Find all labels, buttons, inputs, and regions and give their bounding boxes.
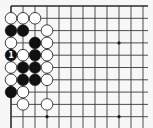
black-stone-icon xyxy=(29,62,41,74)
white-stone-icon xyxy=(41,99,53,111)
black-stone xyxy=(17,74,29,86)
black-stone xyxy=(17,25,29,37)
black-stone: 1 xyxy=(5,49,17,61)
white-stone-icon xyxy=(41,49,53,61)
black-stone xyxy=(29,62,41,74)
move-number-label: 1 xyxy=(8,51,14,60)
black-stone xyxy=(5,86,17,98)
white-stone xyxy=(41,49,53,61)
white-stone-icon xyxy=(17,86,29,98)
white-stone-icon xyxy=(41,25,53,37)
white-stone xyxy=(41,37,53,49)
black-stone-icon xyxy=(5,25,17,37)
stones: 1 xyxy=(5,12,53,110)
white-stone xyxy=(5,74,17,86)
white-stone-icon xyxy=(5,12,17,24)
white-stone xyxy=(17,99,29,111)
white-stone-icon xyxy=(17,99,29,111)
white-stone-icon xyxy=(5,74,17,86)
white-stone xyxy=(17,86,29,98)
white-stone xyxy=(41,99,53,111)
white-stone-icon xyxy=(29,12,41,24)
white-stone-icon xyxy=(17,12,29,24)
white-stone-icon xyxy=(5,62,17,74)
black-stone-icon xyxy=(17,25,29,37)
star-point-icon xyxy=(117,115,120,118)
black-stone xyxy=(29,74,41,86)
star-point-icon xyxy=(117,41,120,44)
black-stone-icon xyxy=(29,74,41,86)
white-stone-icon xyxy=(5,37,17,49)
star-point-icon xyxy=(45,115,48,118)
black-stone xyxy=(29,37,41,49)
white-stone xyxy=(5,12,17,24)
black-stone-icon xyxy=(5,86,17,98)
black-stone-icon xyxy=(29,49,41,61)
black-stone-icon xyxy=(29,37,41,49)
go-board-svg: 1 xyxy=(0,0,153,128)
white-stone xyxy=(29,12,41,24)
white-stone xyxy=(17,12,29,24)
black-stone-icon xyxy=(17,62,29,74)
white-stone-icon xyxy=(41,62,53,74)
white-stone xyxy=(5,37,17,49)
white-stone xyxy=(41,74,53,86)
white-stone xyxy=(41,25,53,37)
black-stone-icon xyxy=(17,74,29,86)
white-stone-icon xyxy=(17,49,29,61)
white-stone-icon xyxy=(41,37,53,49)
black-stone xyxy=(17,62,29,74)
white-stone xyxy=(17,49,29,61)
black-stone xyxy=(29,49,41,61)
white-stone xyxy=(5,62,17,74)
go-board-diagram: 1 xyxy=(0,0,153,128)
white-stone-icon xyxy=(41,74,53,86)
black-stone xyxy=(5,25,17,37)
white-stone xyxy=(41,62,53,74)
